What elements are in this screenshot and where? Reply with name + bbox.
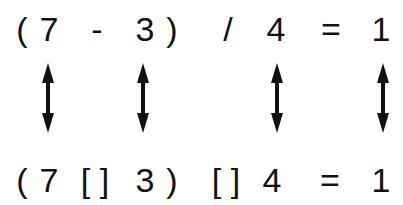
top-token: / [223,12,232,46]
top-token: 4 [267,12,286,46]
bottom-token: ( [16,163,27,197]
top-token: ) [166,12,177,46]
double-arrow-vertical-icon [41,63,55,133]
bottom-token: 7 [40,163,59,197]
top-token: 3 [136,12,155,46]
top-token: 1 [372,12,391,46]
bottom-token: 3 [136,163,155,197]
top-token: = [321,12,341,46]
double-arrow-vertical-icon [136,63,150,133]
top-token: 7 [40,12,59,46]
operator-blank: [ ] [212,163,240,197]
double-arrow-vertical-icon [376,63,390,133]
top-token: ( [16,12,27,46]
operator-blank: [ ] [81,163,109,197]
bottom-token: ) [166,163,177,197]
double-arrow-vertical-icon [270,63,284,133]
top-token: - [91,12,102,46]
bottom-token: = [320,163,340,197]
bottom-token: 4 [263,163,282,197]
bottom-token: 1 [372,163,391,197]
